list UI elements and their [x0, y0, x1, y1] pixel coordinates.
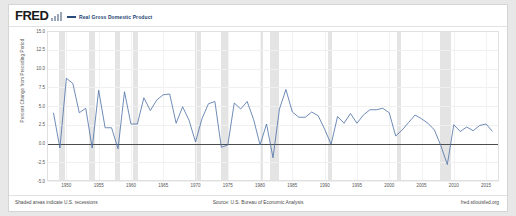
bar-chart-icon — [51, 12, 63, 21]
x-axis-tick: 2010 — [439, 183, 469, 189]
x-axis-tick: 2015 — [471, 183, 501, 189]
y-axis-tick: 0.0 — [11, 141, 45, 146]
chart-header: FRED Real Gross Domestic Product — [9, 5, 507, 27]
x-axis-tick: 1960 — [116, 183, 146, 189]
data-source-note: Source: U.S. Bureau of Economic Analysis — [213, 200, 304, 205]
y-axis-tick: 12.5 — [11, 47, 45, 52]
y-axis-tick: 7.5 — [11, 85, 45, 90]
x-axis-tick: 2005 — [407, 183, 437, 189]
y-axis-tick-labels: 15.012.510.07.55.02.50.0-2.5-5.0 — [9, 31, 45, 181]
y-axis-tick: 10.0 — [11, 66, 45, 71]
fred-url[interactable]: fred.stlouisfed.org — [461, 200, 499, 205]
y-axis-tick: 5.0 — [11, 104, 45, 109]
y-axis-tick: -5.0 — [11, 179, 45, 184]
fred-chart-card: FRED Real Gross Domestic Product 15.012.… — [8, 4, 508, 212]
legend-color-swatch — [67, 16, 76, 18]
x-axis-tick: 1975 — [213, 183, 243, 189]
x-axis-tick-labels: 1950195519601965197019751980198519901995… — [47, 183, 499, 193]
chart-legend: Real Gross Domestic Product — [67, 12, 152, 22]
plot-area — [47, 31, 499, 181]
x-axis-tick: 1950 — [51, 183, 81, 189]
y-axis-tick: 2.5 — [11, 122, 45, 127]
series-line — [53, 78, 492, 164]
x-axis-tick: 1995 — [342, 183, 372, 189]
x-axis-tick: 1985 — [277, 183, 307, 189]
gridline-horizontal — [47, 181, 499, 182]
x-axis-tick: 1980 — [245, 183, 275, 189]
recession-note: Shaded areas indicate U.S. recessions — [15, 200, 98, 205]
y-axis-title: Percent Change from Preceding Period — [20, 16, 25, 146]
x-axis-tick: 2000 — [374, 183, 404, 189]
y-axis-tick: 15.0 — [11, 29, 45, 34]
x-axis-tick: 1955 — [84, 183, 114, 189]
x-axis-tick: 1965 — [148, 183, 178, 189]
chart-footer: Shaded areas indicate U.S. recessions So… — [9, 195, 507, 211]
gdp-line-series — [47, 31, 499, 181]
x-axis-tick: 1970 — [181, 183, 211, 189]
x-axis-tick: 1990 — [310, 183, 340, 189]
y-axis-tick: -2.5 — [11, 160, 45, 165]
legend-series-label: Real Gross Domestic Product — [79, 14, 152, 21]
